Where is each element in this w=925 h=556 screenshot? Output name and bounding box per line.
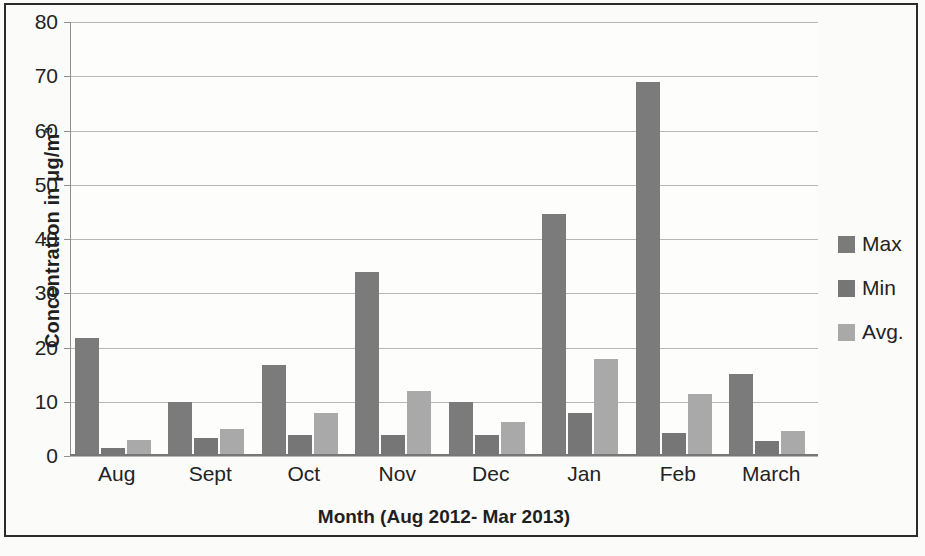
x-axis-tick-label: Aug <box>98 462 135 486</box>
y-axis-tick-label: 50 <box>18 173 58 197</box>
bar-max-aug <box>75 338 99 456</box>
legend-label: Min <box>862 276 896 300</box>
bar-group <box>257 22 351 456</box>
bar-group <box>631 22 725 456</box>
y-axis-tick-label: 20 <box>18 336 58 360</box>
legend-entry: Max <box>838 222 918 266</box>
bar-group <box>725 22 819 456</box>
chart-figure: Concentration in μg/m³ 80706050403020100… <box>0 0 925 556</box>
x-axis-tick-label: Jan <box>567 462 601 486</box>
bar-max-march <box>729 374 753 456</box>
bar-group <box>444 22 538 456</box>
y-axis-tick <box>64 456 70 457</box>
bar-avg-march <box>781 431 805 456</box>
x-axis-title: Month (Aug 2012- Mar 2013) <box>70 506 818 528</box>
bar-min-dec <box>475 435 499 456</box>
x-axis-tick-label: Nov <box>379 462 416 486</box>
legend-entry: Avg. <box>838 310 918 354</box>
bar-max-nov <box>355 272 379 456</box>
x-axis-tick-label: Feb <box>660 462 696 486</box>
x-axis-tick-labels: AugSeptOctNovDecJanFebMarch <box>70 462 818 496</box>
y-axis-tick-label: 30 <box>18 281 58 305</box>
bar-group <box>70 22 164 456</box>
bar-avg-sept <box>220 429 244 456</box>
x-axis-tick-label: Oct <box>287 462 320 486</box>
bar-max-jan <box>542 214 566 456</box>
bar-min-oct <box>288 435 312 456</box>
y-axis-tick-label: 40 <box>18 227 58 251</box>
bar-group <box>164 22 258 456</box>
x-axis-tick-label: March <box>742 462 800 486</box>
legend-swatch-icon <box>838 324 855 341</box>
plot-area <box>70 22 818 456</box>
bar-avg-dec <box>501 422 525 456</box>
y-axis-tick-labels: 80706050403020100 <box>18 22 58 456</box>
bar-max-oct <box>262 365 286 456</box>
bar-avg-feb <box>688 394 712 456</box>
chart-legend: MaxMinAvg. <box>838 222 918 354</box>
legend-label: Max <box>862 232 902 256</box>
bar-avg-nov <box>407 391 431 456</box>
y-axis-tick-label: 70 <box>18 64 58 88</box>
bar-series-layer <box>70 22 818 456</box>
y-axis-tick-label: 0 <box>18 444 58 468</box>
bar-min-nov <box>381 435 405 456</box>
bar-max-sept <box>168 402 192 456</box>
bar-avg-oct <box>314 413 338 456</box>
legend-label: Avg. <box>862 320 904 344</box>
bar-min-feb <box>662 433 686 456</box>
x-axis-line <box>70 454 818 456</box>
bar-min-jan <box>568 413 592 456</box>
legend-swatch-icon <box>838 236 855 253</box>
bar-max-feb <box>636 82 660 456</box>
y-axis-tick-label: 80 <box>18 10 58 34</box>
x-axis-tick-label: Sept <box>189 462 232 486</box>
legend-swatch-icon <box>838 280 855 297</box>
y-axis-tick-label: 60 <box>18 119 58 143</box>
gridline <box>70 456 818 457</box>
y-axis-tick-label: 10 <box>18 390 58 414</box>
bar-group <box>351 22 445 456</box>
legend-entry: Min <box>838 266 918 310</box>
bar-max-dec <box>449 402 473 456</box>
x-axis-tick-label: Dec <box>472 462 509 486</box>
bar-avg-jan <box>594 359 618 456</box>
bar-group <box>538 22 632 456</box>
